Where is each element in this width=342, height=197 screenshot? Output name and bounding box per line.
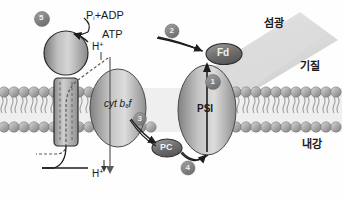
step-5-number: 5 bbox=[39, 14, 43, 22]
figure-canvas: 5 2 1 3 4 Pi+ADP ATP H+ H+ cyt b6f PSI F… bbox=[0, 0, 342, 197]
adp-text: +ADP bbox=[95, 9, 124, 21]
step-1-number: 1 bbox=[211, 78, 215, 86]
cyt-prefix: cyt b bbox=[104, 98, 125, 109]
proton-top-label: H+ bbox=[92, 41, 103, 52]
step-4-number: 4 bbox=[186, 164, 190, 172]
lumen-label: 내강 bbox=[302, 139, 322, 150]
cyt-suffix: f bbox=[128, 98, 131, 109]
step-3-number: 3 bbox=[138, 115, 142, 123]
light-flash-label: 섬광 bbox=[264, 18, 284, 29]
proton-bottom-label: H+ bbox=[92, 168, 103, 179]
plastocyanin-label: PC bbox=[160, 143, 173, 152]
atp-label: ATP bbox=[102, 29, 123, 40]
plus-symbol-bottom: + bbox=[99, 168, 103, 175]
step-2-number: 2 bbox=[170, 27, 174, 35]
thylakoid-membrane bbox=[0, 87, 342, 132]
pi-adp-label: Pi+ADP bbox=[86, 10, 124, 21]
plus-symbol-top: + bbox=[99, 41, 103, 48]
psi-label: PSI bbox=[197, 104, 213, 114]
stroma-label: 기질 bbox=[300, 61, 320, 72]
cytochrome-b6f-label: cyt b6f bbox=[104, 99, 131, 109]
ferredoxin-label: Fd bbox=[217, 48, 229, 58]
